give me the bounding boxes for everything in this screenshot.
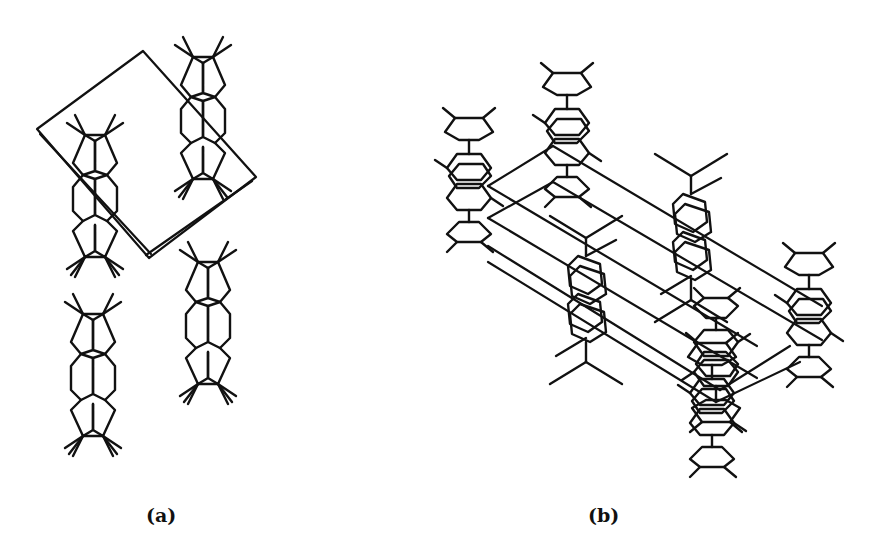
substituent bbox=[724, 467, 736, 477]
substituent bbox=[545, 197, 555, 207]
substituent bbox=[483, 108, 495, 118]
substituent bbox=[691, 154, 727, 176]
substituent bbox=[775, 295, 787, 303]
substituent bbox=[694, 288, 704, 298]
substituent bbox=[787, 377, 797, 387]
substituent bbox=[589, 153, 601, 161]
substituent bbox=[447, 242, 457, 252]
substituent bbox=[655, 154, 691, 176]
substituent bbox=[831, 333, 843, 341]
molecule-b-0 bbox=[435, 108, 503, 252]
ring bbox=[787, 357, 831, 377]
substituent bbox=[541, 63, 553, 73]
molecule-b-1 bbox=[533, 63, 601, 207]
cell-edge bbox=[488, 182, 553, 218]
crystal-packing-figure: (a) (b) bbox=[0, 0, 889, 559]
ring bbox=[673, 232, 707, 270]
panel-b-drawing bbox=[0, 0, 889, 559]
panel-label-a: (a) bbox=[146, 504, 176, 526]
ring bbox=[785, 253, 833, 275]
substituent bbox=[581, 63, 593, 73]
substituent bbox=[586, 362, 622, 384]
substituent bbox=[661, 276, 691, 294]
substituent bbox=[783, 243, 795, 253]
substituent bbox=[491, 198, 503, 206]
molecule-b-3 bbox=[550, 216, 622, 384]
molecules-b bbox=[435, 63, 843, 477]
ring bbox=[690, 447, 734, 467]
cell-edge bbox=[553, 146, 822, 306]
substituent bbox=[655, 300, 691, 322]
ring bbox=[545, 177, 589, 197]
substituent bbox=[691, 178, 721, 194]
ring bbox=[445, 118, 493, 140]
substituent bbox=[550, 362, 586, 384]
ring bbox=[543, 73, 591, 95]
substituent bbox=[443, 108, 455, 118]
cell-edge bbox=[488, 146, 553, 186]
substituent bbox=[586, 216, 622, 238]
substituent bbox=[435, 160, 447, 168]
substituent bbox=[533, 115, 545, 123]
molecule-b-5 bbox=[775, 243, 843, 387]
substituent bbox=[682, 372, 694, 380]
substituent bbox=[821, 377, 833, 387]
substituent bbox=[690, 467, 700, 477]
unit-cell-b bbox=[488, 146, 822, 402]
ring bbox=[447, 222, 491, 242]
molecule-b-2 bbox=[655, 154, 727, 322]
panel-label-b: (b) bbox=[588, 504, 619, 526]
substituent bbox=[823, 243, 835, 253]
substituent bbox=[556, 338, 586, 356]
